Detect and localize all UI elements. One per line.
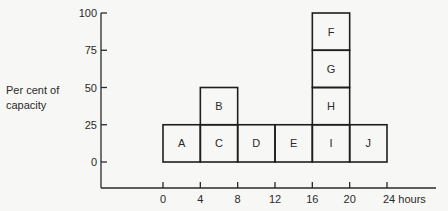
block-label: H bbox=[327, 100, 335, 112]
x-tick-label: 4 bbox=[197, 193, 203, 205]
block-h: H bbox=[312, 88, 349, 125]
block-f: F bbox=[312, 13, 349, 50]
y-tick-label: 25 bbox=[85, 119, 97, 131]
block-label: C bbox=[215, 137, 223, 149]
block-e: E bbox=[275, 125, 312, 162]
block-b: B bbox=[200, 88, 237, 125]
axes: 025507510004812162024 hours bbox=[79, 7, 436, 205]
x-tick-label: 8 bbox=[235, 193, 241, 205]
block-label: J bbox=[366, 137, 372, 149]
block-label: D bbox=[252, 137, 260, 149]
y-tick-label: 100 bbox=[79, 7, 97, 19]
y-tick-label: 75 bbox=[85, 44, 97, 56]
block-i: I bbox=[312, 125, 349, 162]
blocks: ACBDEIHGFJ bbox=[163, 13, 387, 162]
block-label: E bbox=[290, 137, 297, 149]
block-label: A bbox=[178, 137, 186, 149]
block-g: G bbox=[312, 50, 349, 87]
capacity-chart: 025507510004812162024 hours ACBDEIHGFJ bbox=[0, 0, 448, 211]
block-d: D bbox=[238, 125, 275, 162]
x-tick-label: 24 hours bbox=[383, 193, 426, 205]
block-label: B bbox=[215, 100, 222, 112]
y-tick-label: 50 bbox=[85, 82, 97, 94]
x-tick-label: 0 bbox=[160, 193, 166, 205]
block-label: F bbox=[328, 26, 335, 38]
x-tick-label: 12 bbox=[269, 193, 281, 205]
x-tick-label: 16 bbox=[306, 193, 318, 205]
block-a: A bbox=[163, 125, 200, 162]
block-label: G bbox=[327, 63, 336, 75]
x-tick-label: 20 bbox=[344, 193, 356, 205]
block-label: I bbox=[329, 137, 332, 149]
block-c: C bbox=[200, 125, 237, 162]
block-j: J bbox=[350, 125, 387, 162]
y-tick-label: 0 bbox=[91, 156, 97, 168]
